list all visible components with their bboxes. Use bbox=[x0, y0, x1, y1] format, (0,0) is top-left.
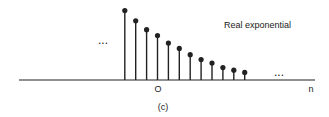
stem-marker-n2 bbox=[177, 46, 182, 51]
stem-marker-n0 bbox=[155, 33, 160, 38]
stem-marker-n6 bbox=[220, 65, 225, 70]
chart-title: Real exponential bbox=[224, 20, 291, 30]
figure-caption: (c) bbox=[158, 102, 169, 112]
stem-marker-n-2 bbox=[133, 18, 138, 23]
x-tick-label-0: O bbox=[154, 84, 161, 94]
stem-marker-n5 bbox=[209, 60, 214, 65]
stem-plot: ... ... Real exponential O n (c) bbox=[0, 0, 329, 117]
stem-marker-n1 bbox=[166, 40, 171, 45]
stem-marker-n8 bbox=[242, 70, 247, 75]
x-axis-label: n bbox=[308, 84, 313, 94]
stem-marker-n-3 bbox=[122, 8, 127, 13]
stem-marker-n3 bbox=[188, 52, 193, 57]
stem-marker-n-1 bbox=[144, 27, 149, 32]
stem-marker-n4 bbox=[199, 57, 204, 62]
stem-series bbox=[122, 8, 247, 80]
left-ellipsis: ... bbox=[98, 33, 108, 47]
right-ellipsis: ... bbox=[274, 65, 284, 79]
stem-marker-n7 bbox=[231, 68, 236, 73]
